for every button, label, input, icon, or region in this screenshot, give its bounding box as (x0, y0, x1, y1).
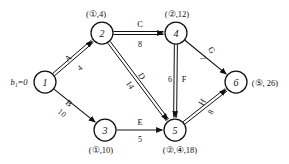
node-id-label: 6 (234, 77, 239, 88)
node-tag-3: (①,10) (89, 145, 113, 155)
edge-f (174, 44, 178, 117)
node-id-label: 5 (173, 125, 178, 136)
node-id-label: 1 (43, 77, 48, 88)
edge-c (114, 32, 164, 35)
node-tag-2: (①,4) (86, 9, 106, 19)
node-5[interactable]: 5 (164, 119, 186, 141)
source-node-value-label: b₁=0 (10, 77, 28, 87)
node-id-label: 4 (174, 28, 179, 39)
edge-weight-d: 14 (124, 79, 136, 91)
edge-label-a: A (62, 52, 74, 64)
node-tag-6: (⑤, 26) (252, 78, 279, 88)
edge-weight-a: 4 (76, 63, 85, 72)
node-id-label: 2 (100, 28, 105, 39)
edge-label-b: B (64, 97, 75, 109)
node-2[interactable]: 2 (91, 22, 113, 44)
node-tag-5: (②,④,18) (163, 145, 198, 155)
edge-label-h: H (196, 97, 208, 108)
node-6[interactable]: 6 (225, 71, 247, 93)
edge-d (108, 41, 169, 121)
node-tag-4: (②,12) (165, 9, 189, 19)
edge-a (53, 40, 94, 76)
edge-weight-h: 8 (206, 108, 216, 116)
graph-canvas: 123456 A4B10C8D14E5F6G7H8(①,4)(①,10)(②,1… (0, 0, 289, 164)
edge-label-g: G (206, 45, 218, 56)
edge-label-c: C (137, 19, 143, 29)
edge-weight-f: 6 (168, 75, 172, 84)
node-3[interactable]: 3 (94, 119, 116, 141)
edge-label-f: F (182, 74, 187, 84)
edge-weight-g: 7 (198, 54, 208, 62)
network-diagram: 123456 A4B10C8D14E5F6G7H8(①,4)(①,10)(②,1… (0, 0, 289, 164)
edge-weight-b: 10 (56, 107, 68, 119)
node-1[interactable]: 1 (34, 71, 56, 93)
edge-label-e: E (137, 117, 142, 127)
edge-weight-c: 8 (138, 40, 142, 49)
node-4[interactable]: 4 (165, 22, 187, 44)
edge-label-d: D (136, 71, 148, 82)
edge-weight-e: 5 (138, 135, 142, 144)
node-id-label: 3 (102, 125, 108, 136)
